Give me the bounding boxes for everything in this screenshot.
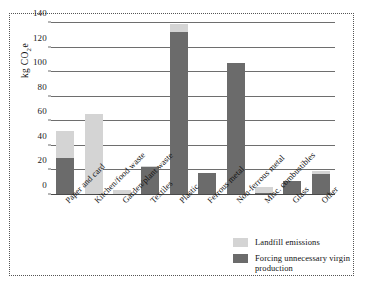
bar-slot bbox=[307, 22, 335, 194]
y-tick-label: 40 bbox=[38, 131, 47, 141]
bar-paper-and-card[interactable] bbox=[56, 131, 74, 194]
y-tick-label: 60 bbox=[38, 106, 47, 116]
y-tick-label: 100 bbox=[33, 57, 47, 67]
bar-segment-virgin-production bbox=[170, 32, 188, 194]
bar-segment-landfill bbox=[56, 131, 74, 158]
y-tick-label: 80 bbox=[38, 82, 47, 92]
y-axis-label-prefix: kg CO bbox=[20, 51, 30, 78]
bar-slot bbox=[51, 22, 79, 194]
y-tick-label: 0 bbox=[42, 180, 47, 190]
y-axis-label-subscript: 2 bbox=[25, 48, 33, 52]
legend-swatch-landfill bbox=[233, 238, 248, 247]
legend-label-virgin-production: Forcing unnecessary virgin production bbox=[255, 253, 351, 273]
bar-slot bbox=[193, 22, 221, 194]
bar-plastic[interactable] bbox=[170, 24, 188, 194]
y-tick-label: 120 bbox=[33, 33, 47, 43]
chart-figure: kg CO2e 020406080100120140 Paper and car… bbox=[0, 0, 367, 294]
bar-slot bbox=[165, 22, 193, 194]
y-tick-label: 140 bbox=[33, 8, 47, 18]
chart-legend: Landfill emissions Forcing unnecessary v… bbox=[233, 237, 351, 279]
y-tick-label: 20 bbox=[38, 155, 47, 165]
bar-segment-landfill bbox=[170, 24, 188, 31]
y-axis-label: kg CO2e bbox=[20, 43, 33, 78]
legend-swatch-virgin-production bbox=[233, 254, 248, 263]
legend-item-landfill: Landfill emissions bbox=[233, 237, 351, 247]
y-axis-label-suffix: e bbox=[20, 43, 30, 48]
legend-label-landfill: Landfill emissions bbox=[255, 237, 320, 247]
legend-item-virgin-production: Forcing unnecessary virgin production bbox=[233, 253, 351, 273]
